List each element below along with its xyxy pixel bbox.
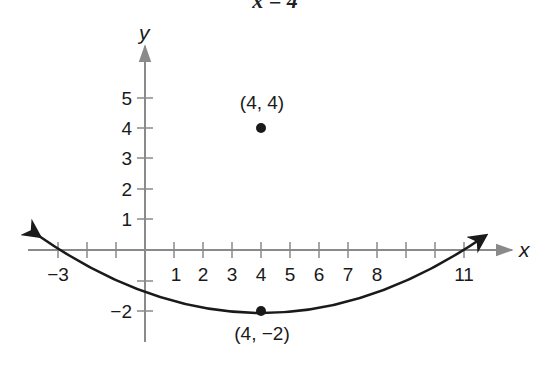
svg-text:6: 6: [314, 264, 325, 285]
point-vertex-label: (4, −2): [234, 323, 289, 344]
svg-text:−3: −3: [47, 264, 69, 285]
svg-text:−2: −2: [110, 301, 132, 322]
x-axis-label: x: [518, 238, 531, 261]
svg-text:5: 5: [121, 88, 132, 109]
svg-text:5: 5: [285, 264, 296, 285]
svg-text:2: 2: [198, 264, 209, 285]
svg-text:3: 3: [227, 264, 238, 285]
point-vertex: [256, 306, 266, 316]
svg-text:11: 11: [454, 264, 474, 285]
svg-text:3: 3: [121, 148, 132, 169]
y-axis-label: y: [137, 21, 151, 44]
svg-text:4: 4: [121, 118, 132, 139]
svg-text:1: 1: [121, 209, 132, 230]
chart-canvas: −3 1 2 3 4 5 6 7 8 11 5 4 3 2 1 −2 x y (…: [0, 0, 547, 370]
svg-text:4: 4: [256, 264, 267, 285]
point-focus-label: (4, 4): [240, 92, 284, 113]
svg-text:7: 7: [343, 264, 354, 285]
x-tick-labels: −3 1 2 3 4 5 6 7 8 11: [47, 264, 474, 285]
svg-text:2: 2: [121, 179, 132, 200]
svg-text:1: 1: [171, 264, 182, 285]
svg-text:8: 8: [372, 264, 383, 285]
point-focus: [256, 123, 266, 133]
